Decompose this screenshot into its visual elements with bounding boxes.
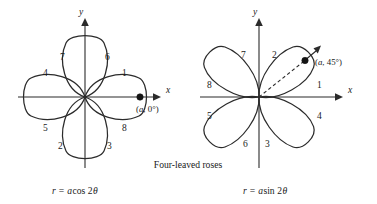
right-region-number-1: 1 (317, 80, 322, 90)
left-region-number-4: 4 (43, 68, 48, 78)
right-y-axis-label: y (252, 7, 258, 17)
left-region-number-1: 1 (122, 68, 127, 78)
left-region-number-8: 8 (122, 123, 127, 133)
left-y-axis-arrowhead (81, 18, 89, 26)
right-region-number-2: 2 (272, 50, 277, 60)
left-equation-argument: 2 (88, 185, 93, 196)
right-region-number-8: 8 (207, 80, 212, 90)
left-equation-variable: θ (93, 185, 98, 196)
left-region-number-5: 5 (43, 123, 48, 133)
left-point-marker-a-0deg (137, 94, 143, 100)
left-point-label-rest: , 0°) (143, 104, 158, 114)
left-equation-equals: = (59, 185, 64, 196)
right-region-number-3: 3 (265, 139, 270, 149)
right-point-label: (a, 45°) (315, 57, 342, 67)
left-polar-plot: x y (a, 0°) 1 2 3 4 5 6 7 8 r=acos2θ (18, 7, 171, 196)
right-equation-function: sin (263, 185, 274, 196)
left-point-label: (a, 0°) (136, 104, 159, 114)
left-region-number-2: 2 (58, 141, 63, 151)
right-polar-plot: x y (a, 45°) 1 2 3 4 5 6 7 8 r=asin2θ (200, 7, 353, 196)
right-point-marker-a-45deg (302, 57, 308, 63)
left-equation-lhs: r (52, 185, 56, 196)
left-y-axis-label: y (78, 7, 84, 17)
right-equation: r=asin2θ (243, 185, 287, 196)
left-region-number-7: 7 (60, 52, 65, 62)
right-equation-lhs: r (243, 185, 247, 196)
right-region-number-5: 5 (207, 111, 212, 121)
figure-caption: Four-leaved roses (154, 159, 223, 170)
right-x-axis-arrowhead (335, 93, 343, 101)
left-x-axis-label: x (165, 85, 171, 95)
right-point-label-rest: , 45°) (322, 57, 342, 67)
right-y-axis-arrowhead (255, 18, 263, 26)
right-equation-variable: θ (282, 185, 287, 196)
right-radius-dashed-line (259, 62, 303, 97)
left-equation-amplitude: a (67, 185, 72, 196)
left-equation-function: cos (72, 185, 85, 196)
left-region-number-3: 3 (107, 141, 112, 151)
right-region-number-7: 7 (241, 50, 246, 60)
left-x-axis-arrowhead (153, 93, 161, 101)
right-equation-argument: 2 (277, 185, 282, 196)
four-leaved-roses-figure: x y (a, 0°) 1 2 3 4 5 6 7 8 r=acos2θ (0, 0, 377, 204)
right-petal-upper-right (259, 46, 314, 97)
left-y-axis (81, 18, 89, 168)
right-region-number-6: 6 (243, 139, 248, 149)
right-equation-amplitude: a (258, 185, 263, 196)
right-equation-equals: = (250, 185, 255, 196)
left-equation: r=acos2θ (52, 185, 98, 196)
right-petal-upper-left (204, 46, 259, 97)
left-region-number-6: 6 (105, 52, 110, 62)
right-petal-lower-left (204, 96, 259, 147)
right-x-axis-label: x (347, 85, 353, 95)
right-region-number-4: 4 (317, 111, 322, 121)
